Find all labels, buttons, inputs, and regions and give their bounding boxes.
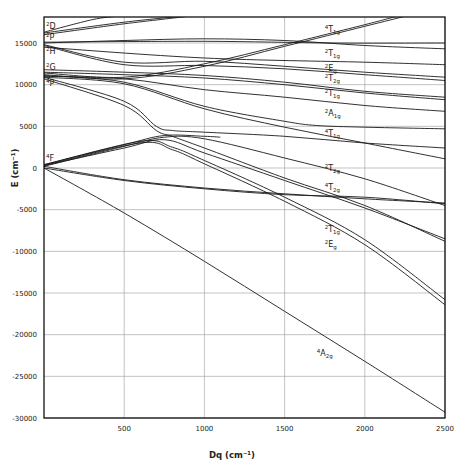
level-label-2t1g: 2T1g (325, 48, 340, 60)
level-label-2a1g: 2A1g (325, 108, 341, 120)
term-label-2g: 2G (46, 62, 56, 72)
x-tick-label: 500 (118, 425, 131, 433)
x-tick-label: 1500 (276, 425, 294, 433)
term-label-2p: 2P (46, 32, 55, 42)
level-label-2t1g: 2T1g (325, 224, 340, 236)
y-tick-label: -10000 (12, 248, 37, 256)
y-tick-label: 10000 (15, 81, 37, 89)
x-tick-label: 2500 (436, 425, 454, 433)
energy-level-diagram: 150001000050000-5000-10000-15000-20000-2… (0, 0, 462, 462)
y-tick-label: 0 (33, 165, 37, 173)
level-label-2t1g: 2T1g (325, 88, 340, 100)
y-tick-label: 15000 (15, 40, 37, 48)
energy-curve-2g-c (44, 77, 445, 159)
level-label-2eg: 2Eg (325, 239, 337, 251)
x-tick-label: 2000 (356, 425, 374, 433)
term-label-4f: 4F (46, 153, 55, 163)
energy-curve-2d-c (44, 16, 180, 33)
energy-curves (44, 16, 445, 412)
energy-curve-2d-b (44, 16, 188, 34)
y-tick-label: 5000 (19, 123, 37, 131)
energy-curve-2h-c (44, 47, 445, 64)
energy-curve-2t1g-a (44, 39, 445, 49)
term-label-2h: 2H (46, 46, 56, 56)
level-label-2t2g: 2T2g (325, 73, 340, 85)
y-axis-ticks: 150001000050000-5000-10000-15000-20000-2… (12, 40, 37, 423)
term-label-2d: 2D (46, 21, 56, 31)
energy-curve-4t1g-f- (44, 77, 445, 148)
energy-curve-2t2g-b (44, 140, 445, 239)
x-tick-label: 1000 (195, 425, 213, 433)
energy-curve-4f-rise-b (44, 135, 220, 165)
y-tick-label: -30000 (12, 415, 37, 423)
energy-curve-2a1g (44, 76, 445, 129)
y-tick-label: -20000 (12, 331, 37, 339)
level-label-4t1g: 4T1g (325, 128, 340, 140)
y-tick-label: -5000 (17, 206, 37, 214)
y-axis-label: E (cm⁻¹) (10, 149, 20, 188)
level-label-4a2g: 4A2g (317, 348, 333, 360)
level-labels: 4T1g2T1g2Eg2T2g2T1g2A1g4T1g2T2g4T2g2T1g2… (317, 24, 341, 359)
level-label-2t2g: 2T2g (325, 163, 340, 175)
energy-curve-4a2g (44, 168, 445, 412)
x-axis-label: Dq (cm⁻¹) (209, 450, 255, 460)
energy-curve-4p-lower (44, 79, 445, 242)
y-tick-label: -25000 (12, 373, 37, 381)
y-tick-label: -15000 (12, 290, 37, 298)
energy-curve-2t1g-c (44, 140, 445, 299)
energy-curve-4t2g (44, 166, 445, 203)
term-label-4p: 4P (46, 78, 55, 88)
energy-curve-4t2g-b (44, 168, 445, 204)
x-axis-ticks: 5001000150020002500 (118, 425, 454, 433)
